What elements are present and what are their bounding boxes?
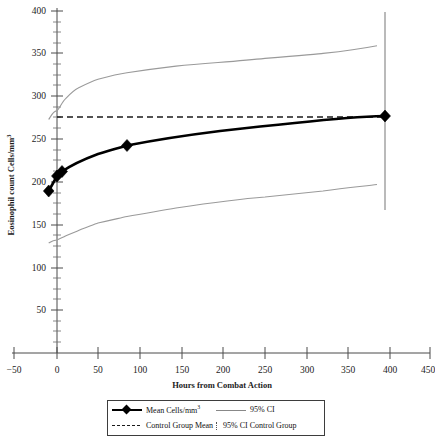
plot-canvas: 400 350 300 250 200 150 100 50 −50 0 50 … <box>0 0 435 441</box>
y-axis-title-superscript: 3 <box>5 134 12 138</box>
y-tick-label: 50 <box>37 305 47 315</box>
legend-item-ci95: 95% CI <box>216 405 330 415</box>
legend-swatch-ci-line-icon <box>216 405 246 415</box>
x-axis-title: Hours from Combat Action <box>172 380 272 390</box>
legend-item-control-mean: Control Group Mean <box>112 421 216 431</box>
y-tick-label: 300 <box>32 91 47 101</box>
eosinophil-count-chart: 400 350 300 250 200 150 100 50 −50 0 50 … <box>0 0 435 441</box>
legend-label-mean-superscript: 3 <box>197 404 200 410</box>
x-tick-label: 300 <box>300 365 315 375</box>
x-tick-label: 50 <box>93 365 103 375</box>
x-tick-label: 450 <box>421 365 435 375</box>
legend-label-control-mean: Control Group Mean <box>146 422 213 430</box>
y-tick-label: 400 <box>32 6 47 16</box>
y-tick-label: 150 <box>32 220 47 230</box>
mean-line <box>49 116 385 191</box>
legend-swatch-mean-line-icon <box>112 405 142 415</box>
x-tick-label: 400 <box>383 365 398 375</box>
ci-upper-curve <box>49 46 377 120</box>
legend-label-ci95: 95% CI <box>250 406 275 414</box>
y-tick-label: 350 <box>32 48 47 58</box>
ci-lower-curve <box>49 185 377 244</box>
y-tick-label: 250 <box>32 134 47 144</box>
y-axis-title: Eosinophil count Cells/mm3 <box>5 134 16 236</box>
legend-item-ci95-control: 95% CI Control Group <box>216 422 330 430</box>
legend-swatch-dashed-line-icon <box>112 421 142 431</box>
y-axis-title-main: Eosinophil count Cells/mm <box>6 138 16 236</box>
x-tick-label: 0 <box>55 365 60 375</box>
data-point-markers <box>43 110 390 197</box>
x-tick-label: 150 <box>175 365 190 375</box>
x-tick-label: 350 <box>341 365 356 375</box>
chart-legend: Mean Cells/mm3 95% CI Control Group Mean… <box>107 400 325 436</box>
x-tick-label: 250 <box>258 365 273 375</box>
x-tick-label: 100 <box>133 365 148 375</box>
y-tick-label: 200 <box>32 177 47 187</box>
legend-label-ci95-control: 95% CI Control Group <box>223 422 297 430</box>
data-point-marker <box>122 140 133 152</box>
y-tick-label: 100 <box>32 263 47 273</box>
legend-item-mean: Mean Cells/mm3 <box>112 405 216 415</box>
x-tick-label: 200 <box>216 365 231 375</box>
data-point-marker <box>380 110 391 122</box>
legend-label-mean: Mean Cells/mm3 <box>146 405 200 415</box>
x-tick-label: −50 <box>7 365 22 375</box>
svg-text:Eosinophil count Cells/mm3: Eosinophil count Cells/mm3 <box>5 134 16 236</box>
